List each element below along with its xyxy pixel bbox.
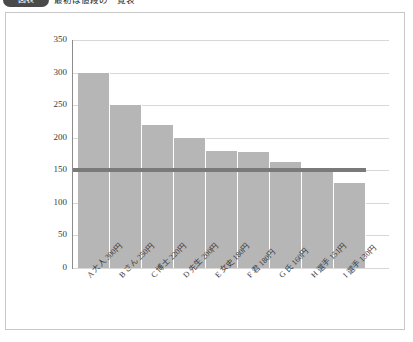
y-tick-label: 100	[27, 198, 67, 207]
y-axis-line	[72, 40, 73, 269]
gridline	[73, 73, 389, 74]
y-tick-label: 150	[27, 165, 67, 174]
threshold-line	[73, 168, 366, 172]
header-strip: 図表 最初は値段の一覧表	[0, 0, 413, 9]
y-tick-label: 200	[27, 133, 67, 142]
header-caption: 最初は値段の一覧表	[54, 0, 135, 7]
chart-card: 350300250200150100500 A 大人 300円B さん 250円…	[5, 12, 405, 330]
y-tick-label: 350	[27, 35, 67, 44]
y-tick-label: 50	[27, 230, 67, 239]
bar-chart-plot: 350300250200150100500 A 大人 300円B さん 250円…	[6, 13, 406, 331]
y-tick-label: 300	[27, 68, 67, 77]
header-badge: 図表	[3, 0, 49, 7]
gridline	[73, 40, 389, 41]
y-tick-label: 250	[27, 100, 67, 109]
y-tick-label: 0	[27, 263, 67, 272]
